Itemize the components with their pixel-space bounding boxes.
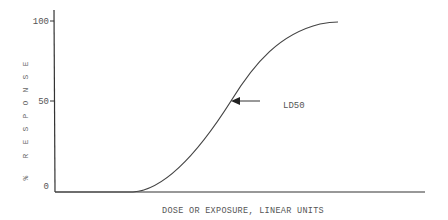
y-tick-label-100: 100 xyxy=(33,17,49,27)
dose-response-chart: 100 50 0 % R E S P O N S E DOSE OR EXPOS… xyxy=(0,0,448,220)
y-axis-title-char: P xyxy=(21,113,30,118)
y-axis-title-char: O xyxy=(21,100,30,105)
y-axis-title-char: S xyxy=(21,74,30,79)
y-tick-label-50: 50 xyxy=(38,97,49,107)
ld50-arrow xyxy=(231,97,260,105)
y-axis-title-char: S xyxy=(21,126,30,131)
y-axis-title-char: N xyxy=(21,87,30,92)
y-axis-title-char: E xyxy=(21,139,30,144)
y-tick-label-0: 0 xyxy=(44,182,49,192)
y-axis-title: % R E S P O N S E xyxy=(21,61,30,180)
y-axis xyxy=(54,10,55,192)
y-axis-title-char: % xyxy=(21,175,30,180)
x-axis-title: DOSE OR EXPOSURE, LINEAR UNITS xyxy=(162,206,324,216)
y-axis-title-char: R xyxy=(21,153,30,158)
y-axis-title-char: E xyxy=(21,61,30,66)
ld50-label: LD50 xyxy=(283,101,305,111)
